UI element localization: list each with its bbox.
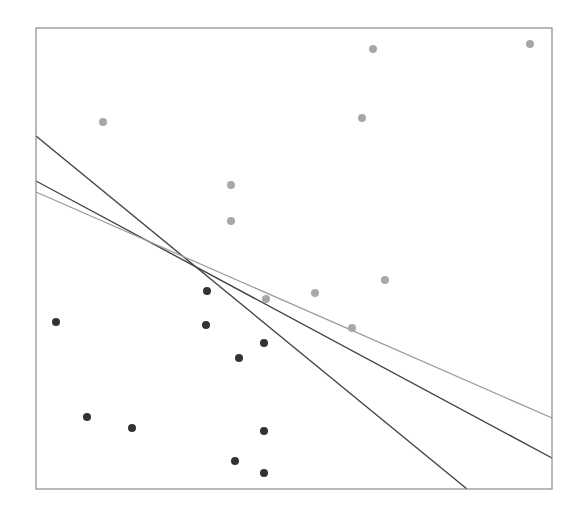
class-0-point [203,287,211,295]
class-1-point [262,295,270,303]
data-points [52,40,534,477]
class-1-point [227,181,235,189]
class-1-point [311,289,319,297]
class-0-point [52,318,60,326]
class-1-point [526,40,534,48]
class-1-point [358,114,366,122]
class-1-point [348,324,356,332]
class-0-point [83,413,91,421]
boundary-b-line [36,181,552,458]
class-0-point [202,321,210,329]
class-0-point [231,457,239,465]
class-0-point [260,469,268,477]
boundary-a-line [36,136,467,489]
plot-frame [36,28,552,489]
class-1-point [369,45,377,53]
class-1-point [381,276,389,284]
class-0-point [260,339,268,347]
decision-boundary-lines [36,136,552,489]
class-0-point [235,354,243,362]
boundary-c-line [36,192,552,418]
scatter-chart [0,0,580,512]
class-1-point [99,118,107,126]
class-1-point [227,217,235,225]
class-0-point [128,424,136,432]
class-0-point [260,427,268,435]
